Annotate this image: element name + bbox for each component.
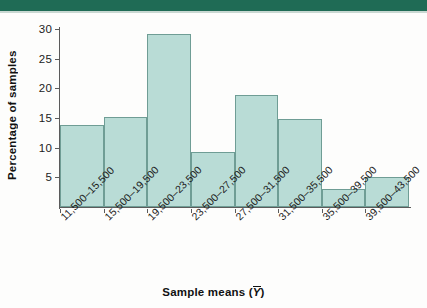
x-axis-title-suffix: ) bbox=[261, 286, 265, 298]
figure-canvas: Percentage of samples 51015202530 11,500… bbox=[0, 0, 427, 308]
y-axis-tick bbox=[55, 59, 60, 60]
y-axis-tick-label: 5 bbox=[45, 171, 52, 183]
x-axis-title: Sample means (Y) bbox=[0, 286, 427, 299]
y-axis-tick bbox=[55, 118, 60, 119]
x-axis-title-prefix: Sample means ( bbox=[162, 286, 252, 298]
y-bar-symbol: Y bbox=[253, 286, 261, 299]
y-axis-tick bbox=[55, 29, 60, 30]
y-axis-tick-label: 10 bbox=[39, 142, 52, 154]
page-header-band-shadow bbox=[0, 11, 427, 13]
y-axis-tick-label: 15 bbox=[39, 112, 52, 124]
y-axis-tick-label: 20 bbox=[39, 82, 52, 94]
y-axis-title: Percentage of samples bbox=[6, 50, 20, 180]
y-axis-tick-label: 30 bbox=[39, 23, 52, 35]
y-axis-tick-label: 25 bbox=[39, 53, 52, 65]
y-axis-tick bbox=[55, 88, 60, 89]
page-header-band bbox=[0, 0, 427, 11]
